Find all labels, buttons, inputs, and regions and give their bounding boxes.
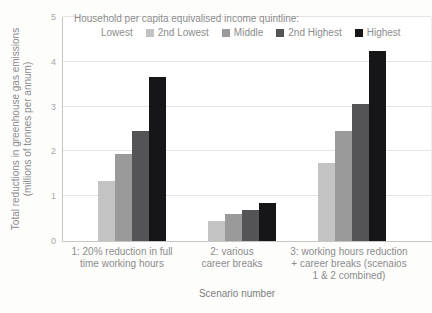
- y-axis-title-line2: (millions of tonnes per annum): [22, 9, 34, 249]
- plot-area: [62, 17, 432, 242]
- legend-swatch-icon: [89, 29, 97, 37]
- x-category-label-1: 1: 20% reduction in fulltime working hou…: [52, 246, 192, 270]
- legend-title: Household per capita equivalised income …: [74, 13, 401, 24]
- legend-swatch-icon: [222, 29, 230, 37]
- bar-highest-scenario-3: [369, 51, 386, 241]
- legend-item-lowest: Lowest: [89, 27, 133, 38]
- legend-item-label: 2nd Lowest: [158, 27, 209, 38]
- x-axis-title: Scenario number: [172, 288, 302, 299]
- legend: Household per capita equivalised income …: [74, 13, 401, 38]
- bar-2nd-highest-scenario-3: [352, 104, 369, 241]
- legend-swatch-icon: [355, 29, 363, 37]
- bar-highest-scenario-2: [259, 203, 276, 241]
- bar-chart: Total reductions in greenhouse gas emiss…: [0, 0, 432, 313]
- y-tick-label-1: 1: [38, 191, 56, 201]
- legend-items: Lowest2nd LowestMiddle2nd HighestHighest: [74, 27, 401, 38]
- bar-2nd-lowest-scenario-1: [98, 181, 115, 241]
- x-category-label-line: time working hours: [52, 258, 192, 270]
- y-axis-title-line1: Total reductions in greenhouse gas emiss…: [10, 9, 22, 249]
- bar-2nd-highest-scenario-2: [242, 210, 259, 241]
- x-category-label-line: 3: working hours reduction: [266, 246, 432, 258]
- y-axis-title: Total reductions in greenhouse gas emiss…: [10, 9, 34, 249]
- legend-item-2nd-highest: 2nd Highest: [276, 27, 341, 38]
- legend-item-label: Highest: [367, 27, 401, 38]
- x-category-label-line: 1 & 2 combined): [266, 270, 432, 282]
- legend-item-label: Lowest: [101, 27, 133, 38]
- x-category-label-line: 1: 20% reduction in full: [52, 246, 192, 258]
- bar-highest-scenario-1: [149, 77, 166, 241]
- bar-2nd-lowest-scenario-3: [318, 163, 335, 241]
- legend-item-label: 2nd Highest: [288, 27, 341, 38]
- y-tick-label-0: 0: [38, 236, 56, 246]
- legend-item-2nd-lowest: 2nd Lowest: [146, 27, 209, 38]
- legend-item-label: Middle: [234, 27, 263, 38]
- bar-middle-scenario-1: [115, 154, 132, 241]
- bar-2nd-lowest-scenario-2: [208, 221, 225, 241]
- legend-swatch-icon: [276, 29, 284, 37]
- bar-2nd-highest-scenario-1: [132, 131, 149, 241]
- x-category-label-3: 3: working hours reduction+ career break…: [266, 246, 432, 282]
- y-tick-label-5: 5: [38, 12, 56, 22]
- bar-middle-scenario-2: [225, 214, 242, 241]
- legend-swatch-icon: [146, 29, 154, 37]
- y-tick-label-4: 4: [38, 57, 56, 67]
- legend-item-middle: Middle: [222, 27, 263, 38]
- legend-item-highest: Highest: [355, 27, 401, 38]
- y-tick-label-3: 3: [38, 102, 56, 112]
- x-category-label-line: + career breaks (scenaios: [266, 258, 432, 270]
- y-tick-label-2: 2: [38, 146, 56, 156]
- bar-middle-scenario-3: [335, 131, 352, 241]
